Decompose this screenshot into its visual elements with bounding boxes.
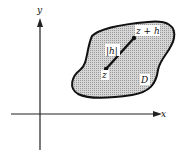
region-label: D xyxy=(140,75,148,85)
start-point-label: z xyxy=(101,70,107,80)
point-z-plus-h xyxy=(132,36,136,40)
diagram-canvas: y x z + h |h| z D xyxy=(0,0,184,153)
end-point-label: z + h xyxy=(135,26,160,36)
y-axis-label: y xyxy=(36,5,43,15)
segment-label: |h| xyxy=(106,46,118,57)
x-axis-label: x xyxy=(161,109,166,119)
y-axis-arrow-icon xyxy=(37,18,43,27)
